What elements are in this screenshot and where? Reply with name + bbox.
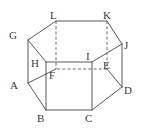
vertex-label-c: C <box>85 113 92 124</box>
edge-j-k <box>107 21 122 44</box>
edge-d-e <box>107 69 122 87</box>
vertex-label-i: I <box>86 51 90 62</box>
prism-drawing <box>0 0 142 130</box>
vertex-label-k: K <box>103 10 111 21</box>
top-hexagon-face <box>28 21 122 62</box>
bottom-hexagon-face <box>28 69 122 110</box>
vertex-label-e: E <box>103 60 110 71</box>
edge-a-b <box>28 83 46 110</box>
vertex-label-l: L <box>50 10 57 21</box>
vertex-label-b: B <box>37 113 44 124</box>
vertex-label-g: G <box>9 30 17 41</box>
vertex-label-j: J <box>124 40 128 51</box>
vertex-label-h: H <box>31 58 39 69</box>
vertex-label-f: F <box>49 70 55 81</box>
hexagonal-prism-figure: ABCDEFGHIJKL <box>0 0 142 130</box>
edge-c-d <box>92 87 122 110</box>
vertex-label-a: A <box>10 80 18 91</box>
edge-l-g <box>28 21 56 40</box>
vertex-label-d: D <box>124 85 132 96</box>
